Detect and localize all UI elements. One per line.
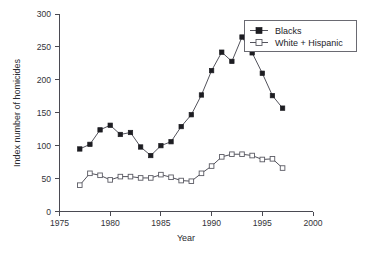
legend-label-white-hispanic: White + Hispanic — [275, 38, 343, 48]
data-point-marker — [118, 174, 123, 179]
open-square-icon — [256, 40, 262, 46]
data-point-marker — [270, 157, 275, 162]
homicide-index-line-chart: 050100150200250300 197519801985199019952… — [0, 0, 367, 253]
x-axis-title: Year — [177, 233, 195, 243]
y-tick-label: 0 — [46, 207, 51, 217]
data-point-marker — [189, 113, 193, 117]
data-point-marker — [128, 174, 133, 179]
x-tick-label: 1980 — [101, 218, 120, 228]
data-point-marker — [199, 93, 203, 97]
data-point-marker — [270, 93, 274, 97]
data-point-marker — [138, 145, 142, 149]
data-point-marker — [260, 157, 265, 162]
data-point-marker — [240, 152, 245, 157]
x-tick-label: 2000 — [303, 218, 322, 228]
series-layer — [77, 35, 284, 188]
y-tick-label: 150 — [37, 108, 52, 118]
y-tick-label: 100 — [37, 141, 52, 151]
data-point-marker — [148, 176, 153, 181]
data-point-marker — [260, 71, 264, 75]
chart-screenshot: 050100150200250300 197519801985199019952… — [0, 0, 367, 253]
data-point-marker — [189, 179, 194, 184]
data-point-marker — [88, 142, 92, 146]
data-point-marker — [77, 183, 82, 188]
data-point-marker — [88, 171, 93, 176]
series-blacks — [78, 35, 285, 158]
y-axis-title: Index number of homicides — [12, 58, 22, 167]
x-tick-label: 1990 — [202, 218, 221, 228]
x-axis-ticks: 197519801985199019952000 — [50, 212, 323, 229]
series-white-hispanic — [77, 152, 284, 188]
data-point-marker — [240, 35, 244, 39]
x-tick-label: 1975 — [50, 218, 69, 228]
legend-label-blacks: Blacks — [275, 26, 302, 36]
data-point-marker — [98, 173, 103, 178]
data-point-marker — [199, 171, 204, 176]
data-point-marker — [219, 155, 224, 160]
y-axis-ticks: 050100150200250300 — [37, 9, 60, 217]
y-tick-label: 200 — [37, 75, 52, 85]
data-point-marker — [149, 153, 153, 157]
data-point-marker — [220, 50, 224, 54]
data-point-marker — [179, 124, 183, 128]
data-point-marker — [280, 166, 285, 171]
data-point-marker — [118, 132, 122, 136]
y-tick-label: 250 — [37, 42, 52, 52]
data-point-marker — [128, 130, 132, 134]
data-point-marker — [209, 164, 214, 169]
data-point-marker — [108, 123, 112, 127]
data-point-marker — [179, 178, 184, 183]
data-point-marker — [250, 153, 255, 158]
data-point-marker — [159, 172, 164, 177]
data-point-marker — [169, 140, 173, 144]
x-tick-label: 1985 — [151, 218, 170, 228]
filled-square-icon — [256, 28, 262, 34]
data-point-marker — [159, 143, 163, 147]
x-tick-label: 1995 — [253, 218, 272, 228]
data-point-marker — [78, 147, 82, 151]
data-point-marker — [280, 106, 284, 110]
chart-legend: Blacks White + Hispanic — [245, 21, 357, 52]
data-point-marker — [230, 59, 234, 63]
data-point-marker — [230, 152, 235, 157]
y-tick-label: 300 — [37, 9, 52, 19]
data-point-marker — [138, 176, 143, 181]
data-point-marker — [169, 175, 174, 180]
data-point-marker — [108, 178, 113, 183]
data-point-marker — [209, 68, 213, 72]
data-point-marker — [98, 128, 102, 132]
y-tick-label: 50 — [41, 174, 51, 184]
